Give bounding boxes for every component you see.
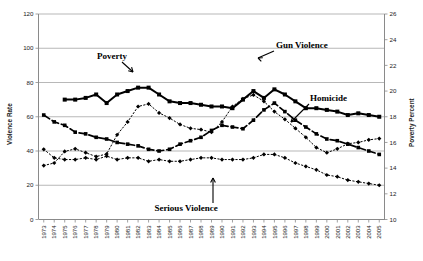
- x-tick-label: 1987: [188, 225, 194, 239]
- x-tick-label: 2000: [324, 225, 330, 239]
- data-point: [220, 104, 224, 108]
- x-tick-label: 1993: [251, 225, 257, 239]
- data-point: [262, 108, 266, 112]
- x-tick-label: 1984: [156, 225, 162, 239]
- x-tick-label: 2001: [335, 225, 341, 239]
- x-tick-label: 1985: [167, 225, 173, 239]
- data-point: [199, 136, 203, 140]
- x-tick-label: 1988: [198, 225, 204, 239]
- right-tick-label: 20: [390, 87, 397, 94]
- data-point: [220, 124, 224, 128]
- right-tick-label: 12: [390, 190, 397, 197]
- x-tick-label: 1991: [230, 225, 236, 239]
- left-tick-label: 120: [23, 10, 34, 17]
- data-point: [199, 103, 203, 107]
- data-point: [210, 104, 214, 108]
- data-point: [314, 106, 318, 110]
- data-point: [367, 149, 371, 153]
- violence-poverty-chart: 020406080100120 101214161820222426 19731…: [0, 0, 423, 261]
- left-tick-label: 20: [27, 181, 34, 188]
- x-tick-label: 1999: [314, 225, 320, 239]
- data-point: [178, 101, 182, 105]
- data-point: [283, 110, 287, 114]
- x-tick-label: 1976: [72, 225, 78, 239]
- data-point: [293, 99, 297, 103]
- data-point: [356, 146, 360, 150]
- data-point: [346, 113, 350, 117]
- data-point: [367, 113, 371, 117]
- x-tick-label: 1986: [177, 225, 183, 239]
- x-tick-label: 1998: [303, 225, 309, 239]
- data-point: [325, 108, 329, 112]
- data-point: [377, 153, 381, 157]
- data-point: [356, 111, 360, 115]
- x-tick-label: 1973: [41, 225, 47, 239]
- data-point: [272, 87, 276, 91]
- data-point: [84, 132, 88, 136]
- data-point: [189, 101, 193, 105]
- data-point: [63, 124, 67, 128]
- x-tick-label: 1980: [114, 225, 120, 239]
- data-point: [42, 113, 46, 117]
- x-tick-label: 1974: [51, 225, 57, 239]
- left-tick-label: 60: [27, 113, 34, 120]
- data-point: [251, 89, 255, 93]
- left-tick-label: 80: [27, 79, 34, 86]
- data-point: [283, 92, 287, 96]
- data-point: [115, 141, 119, 145]
- left-tick-label: 0: [30, 216, 34, 223]
- data-point: [325, 137, 329, 141]
- data-point: [168, 99, 172, 103]
- data-point: [73, 130, 77, 134]
- data-point: [273, 101, 277, 105]
- data-point: [52, 120, 56, 124]
- data-point: [231, 125, 235, 129]
- data-point: [136, 144, 140, 148]
- data-point: [63, 98, 67, 102]
- data-point: [252, 118, 256, 122]
- x-tick-label: 1981: [125, 225, 131, 239]
- data-point: [126, 89, 130, 93]
- x-tick-label: 2003: [355, 225, 361, 239]
- data-point: [157, 149, 161, 153]
- data-point: [377, 115, 381, 119]
- data-point: [147, 147, 151, 151]
- x-tick-label: 1977: [83, 225, 89, 239]
- data-point: [168, 147, 172, 151]
- y-axis-title: Violence Rate: [6, 103, 13, 145]
- data-point: [147, 86, 151, 90]
- x-tick-label: 2005: [376, 225, 382, 239]
- chart-container: 020406080100120 101214161820222426 19731…: [0, 0, 423, 261]
- homicide-label: Homicide: [310, 93, 347, 103]
- right-tick-label: 16: [390, 139, 397, 146]
- x-tick-label: 1996: [282, 225, 288, 239]
- x-tick-label: 2004: [366, 225, 372, 239]
- x-tick-label: 1997: [293, 225, 299, 239]
- right-tick-label: 10: [390, 216, 397, 223]
- right-tick-label: 24: [390, 36, 397, 43]
- x-tick-label: 2002: [345, 225, 351, 239]
- data-point: [84, 96, 88, 100]
- data-point: [336, 139, 340, 143]
- data-point: [335, 110, 339, 114]
- data-point: [241, 127, 245, 131]
- data-point: [136, 86, 140, 90]
- data-point: [115, 92, 119, 96]
- data-point: [105, 137, 109, 141]
- x-tick-label: 1990: [219, 225, 225, 239]
- x-tick-label: 1983: [146, 225, 152, 239]
- x-tick-label: 1975: [62, 225, 68, 239]
- data-point: [105, 101, 109, 105]
- x-tick-label: 1978: [93, 225, 99, 239]
- left-tick-label: 40: [27, 147, 34, 154]
- left-tick-label: 100: [23, 44, 34, 51]
- x-tick-label: 1994: [261, 225, 267, 239]
- x-tick-label: 1979: [104, 225, 110, 239]
- data-point: [315, 132, 319, 136]
- right-tick-label: 26: [390, 10, 397, 17]
- data-point: [157, 92, 161, 96]
- data-point: [304, 125, 308, 129]
- gun-violence-label: Gun Violence: [276, 40, 328, 50]
- poverty-label: Poverty: [97, 51, 127, 61]
- data-point: [189, 139, 193, 143]
